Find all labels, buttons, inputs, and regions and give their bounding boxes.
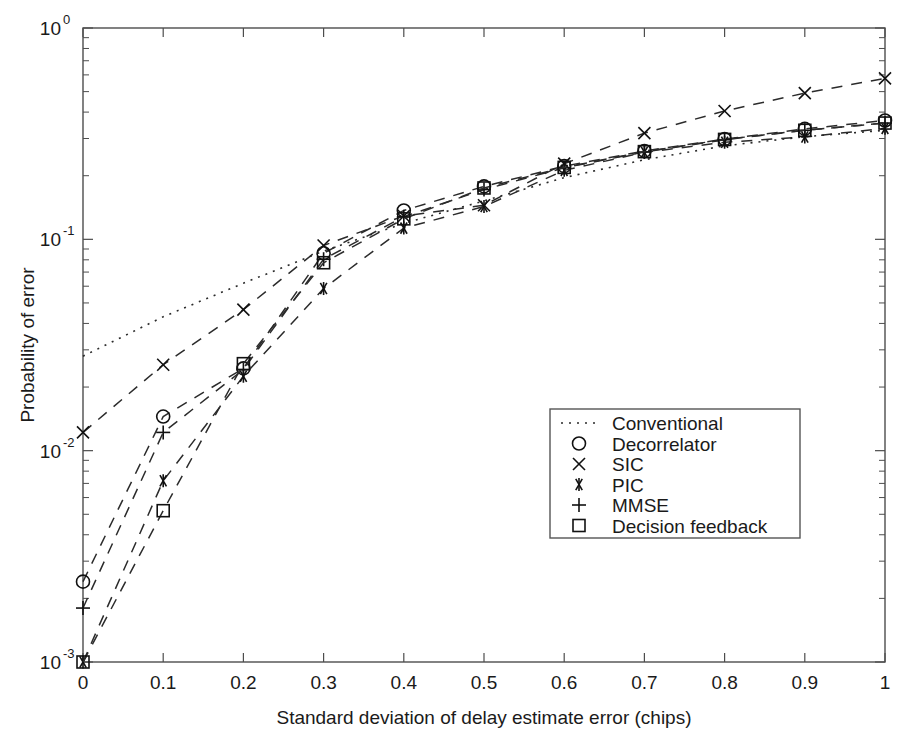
- series-path: [83, 78, 885, 432]
- legend-label: SIC: [612, 454, 644, 475]
- y-axis-title: Probability of error: [17, 267, 38, 423]
- x-tick-label: 0: [78, 672, 89, 693]
- x-tick-label: 0.2: [230, 672, 256, 693]
- marker-square: [157, 505, 169, 517]
- legend-label: Conventional: [612, 413, 723, 434]
- figure-container: 10010-110-210-3 00.10.20.30.40.50.60.70.…: [0, 0, 906, 739]
- series-path: [83, 130, 885, 356]
- x-tick-label: 0.7: [631, 672, 657, 693]
- legend: ConventionalDecorrelatorSICPICMMSEDecisi…: [550, 409, 800, 538]
- y-tick-exponent: -3: [63, 646, 75, 661]
- y-tick-label: 10: [40, 652, 61, 673]
- x-tick-label: 1: [880, 672, 891, 693]
- legend-label: Decorrelator: [612, 434, 717, 455]
- y-tick-label: 10: [40, 229, 61, 250]
- legend-label: Decision feedback: [612, 516, 768, 537]
- series-mmse: [76, 116, 892, 615]
- legend-label: MMSE: [612, 495, 669, 516]
- chart-canvas: 10010-110-210-3 00.10.20.30.40.50.60.70.…: [0, 0, 906, 739]
- legend-label: PIC: [612, 475, 644, 496]
- y-tick-exponent: -2: [63, 435, 75, 450]
- series-pic: [80, 122, 889, 669]
- plot-border: [83, 28, 885, 662]
- axes-frame: [83, 28, 885, 662]
- x-tick-label: 0.3: [310, 672, 336, 693]
- x-axis-title: Standard deviation of delay estimate err…: [276, 707, 691, 728]
- series-conventional: [83, 130, 885, 356]
- x-tick-label: 0.5: [471, 672, 497, 693]
- x-tick-label: 0.1: [150, 672, 176, 693]
- x-tick-label: 0.8: [711, 672, 737, 693]
- y-tick-label: 10: [40, 441, 61, 462]
- x-tick-label: 0.6: [551, 672, 577, 693]
- y-tick-exponent: -1: [63, 223, 75, 238]
- x-axis-ticks: 00.10.20.30.40.50.60.70.80.91: [78, 28, 891, 693]
- y-tick-exponent: 0: [63, 12, 70, 27]
- series-sic: [77, 72, 891, 438]
- x-tick-label: 0.9: [792, 672, 818, 693]
- x-tick-label: 0.4: [391, 672, 418, 693]
- series-layer: [76, 72, 892, 668]
- y-axis-ticks: 10010-110-210-3: [40, 12, 885, 673]
- series-decision-feedback: [77, 117, 891, 668]
- y-tick-label: 10: [40, 18, 61, 39]
